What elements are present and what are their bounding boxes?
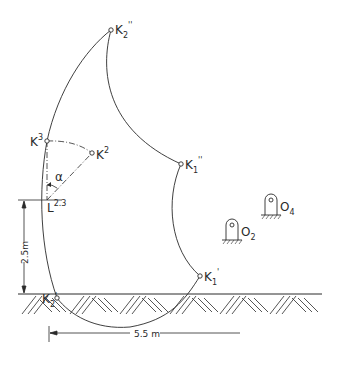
- dimension-vertical-label: 2.5m: [20, 241, 30, 264]
- pivot-o2: [222, 219, 242, 244]
- construction-lines: [47, 141, 92, 200]
- label-o4: O4: [280, 200, 295, 217]
- label-k1pp: K1'': [185, 156, 202, 175]
- label-l23: L2.3: [47, 199, 66, 215]
- label-k2pp: K2'': [115, 21, 132, 40]
- point-k2pp: [109, 28, 113, 32]
- label-o2: O2: [241, 225, 256, 242]
- label-k1p: K1': [204, 268, 219, 287]
- point-k3: [45, 139, 49, 143]
- pivot-o4: [261, 194, 281, 219]
- label-alpha: α: [55, 170, 63, 184]
- dimension-horizontal-label: 5.5 m: [134, 329, 160, 339]
- point-k1p: [198, 274, 202, 278]
- point-markers: [45, 28, 202, 300]
- label-k3: K3: [30, 133, 43, 149]
- label-k2: K2: [96, 146, 109, 162]
- diagram-canvas: 2.5m 5.5 m K2'' K3 K2 K1'' K1' K2' L2.3 …: [0, 0, 339, 367]
- label-k2p: K2': [42, 292, 57, 309]
- trajectory-curves: [42, 30, 200, 327]
- point-k1pp: [179, 162, 183, 166]
- point-k2: [90, 151, 94, 155]
